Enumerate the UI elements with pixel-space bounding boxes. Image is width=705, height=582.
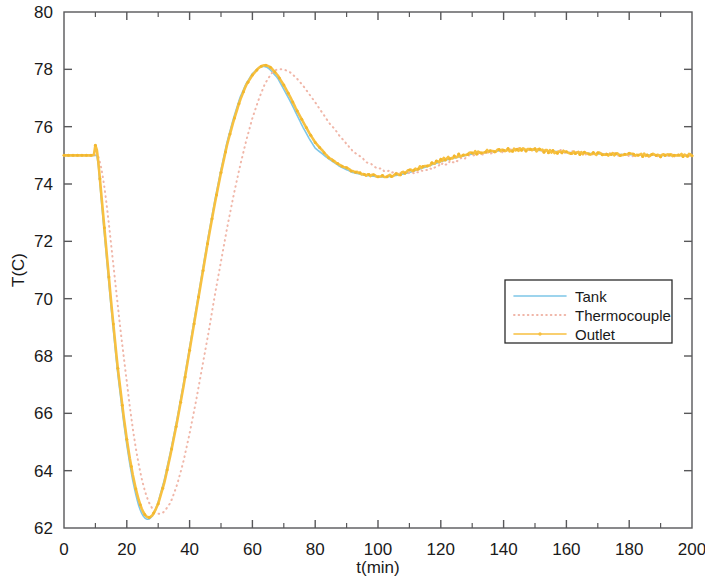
series-marker [323,151,326,154]
series-marker [85,154,88,157]
series-marker [143,513,146,516]
series-marker [134,487,137,490]
series-marker [237,102,240,105]
series-marker [67,154,70,157]
series-marker [538,148,541,151]
series-marker [493,150,496,153]
series-marker [318,146,321,149]
series-marker [314,141,317,144]
series-marker [421,165,424,168]
y-tick-label: 72 [34,232,53,251]
series-marker [377,175,380,178]
series-marker [224,151,227,154]
y-tick-label: 62 [34,519,53,538]
series-marker [251,74,254,77]
series-marker [179,401,182,404]
series-marker [646,153,649,156]
series-marker [80,154,83,157]
series-marker [412,169,415,172]
series-marker [578,153,581,156]
series-marker [116,367,119,370]
series-marker [206,242,209,245]
series-marker [601,153,604,156]
series-marker [228,133,231,136]
series-marker [359,171,362,174]
series-marker [542,151,545,154]
series-marker [130,465,133,468]
x-tick-label: 100 [364,540,392,559]
series-marker [628,152,631,155]
series-marker [466,153,469,156]
series-marker [551,149,554,152]
series-marker [368,173,371,176]
series-marker [475,153,478,156]
series-marker [161,487,164,490]
series-marker [394,172,397,175]
series-marker [170,447,173,450]
series-marker [659,155,662,158]
chart-figure: 62646668707274767880 0204060801001201401… [0,0,705,582]
series-marker [686,155,689,158]
series-marker [336,162,339,165]
x-tick-label: 80 [306,540,325,559]
series-marker [592,151,595,154]
series-marker [403,172,406,175]
series-marker [103,226,106,229]
series-marker [354,171,357,174]
series-marker [596,151,599,154]
y-tick-label: 78 [34,60,53,79]
y-tick-label: 76 [34,118,53,137]
series-marker [587,152,590,155]
series-marker [682,155,685,158]
series-marker [511,150,514,153]
x-tick-label: 0 [59,540,68,559]
series-marker [641,155,644,158]
series-marker [148,516,151,519]
series-marker [480,152,483,155]
series-marker [345,166,348,169]
series-marker [650,153,653,156]
series-marker [381,174,384,177]
series-marker [184,375,187,378]
series-marker [444,158,447,161]
series-marker [152,512,155,515]
series-marker [255,68,258,71]
series-marker [614,152,617,155]
series-marker [673,154,676,157]
series-marker [139,503,142,506]
series-marker [560,151,563,154]
x-tick-label: 160 [552,540,580,559]
series-marker [188,349,191,352]
series-marker [457,153,460,156]
y-tick-label: 64 [34,462,53,481]
series-marker [94,144,97,147]
series-marker [98,177,101,180]
series-marker [71,154,74,157]
series-marker [89,154,92,157]
series-marker [668,153,671,156]
series-marker [305,126,308,129]
series-marker [453,154,456,157]
series-marker [327,156,330,159]
series-marker [448,157,451,160]
series-marker [242,90,245,93]
series-marker [605,153,608,156]
series-marker [583,151,586,154]
series-marker [121,404,124,407]
series-marker [507,147,510,150]
series-marker [417,168,420,171]
legend-label-thermocouple: Thermocouple [575,307,671,324]
series-marker [332,159,335,162]
series-marker [610,153,613,156]
series-marker [372,173,375,176]
series-marker [197,296,200,299]
series-marker [502,149,505,152]
series-marker [385,175,388,178]
series-marker [215,194,218,197]
y-tick-label: 68 [34,347,53,366]
series-marker [264,64,267,67]
series-marker [462,154,465,157]
series-marker [408,168,411,171]
series-marker [273,71,276,74]
series-marker [287,92,290,95]
